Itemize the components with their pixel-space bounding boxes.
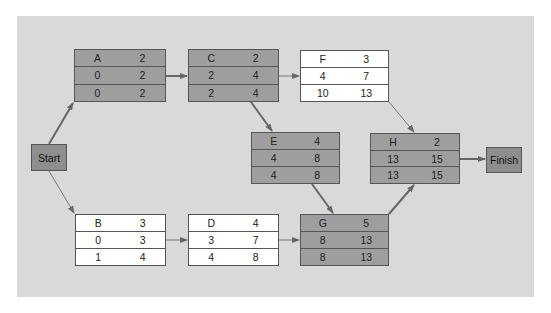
late-start: 10 [301,87,345,99]
early-finish: 7 [345,70,389,82]
activity-node-f: F3 47 1013 [300,50,389,102]
activity-node-a: A2 02 02 [74,49,166,102]
early-start: 0 [76,234,121,246]
node-header-row: D4 [189,215,278,231]
late-start: 13 [371,169,415,181]
late-finish: 13 [345,251,389,263]
early-start: 13 [371,153,415,165]
late-finish: 8 [296,169,340,181]
late-start: 4 [189,251,234,263]
node-early-row: 02 [75,66,165,83]
activity-node-d: D4 37 48 [188,214,279,266]
activity-name: H [371,136,415,148]
node-early-row: 48 [252,149,339,166]
node-early-row: 37 [189,231,278,248]
late-finish: 15 [415,169,459,181]
activity-name: B [76,217,121,229]
start-node: Start [31,144,67,171]
node-header-row: B3 [76,215,165,231]
node-early-row: 1315 [371,150,459,167]
activity-name: A [75,52,120,64]
early-finish: 8 [296,152,340,164]
early-start: 0 [75,69,120,81]
activity-duration: 2 [120,52,165,64]
activity-duration: 3 [121,217,166,229]
node-late-row: 1315 [371,166,459,183]
late-start: 1 [76,251,121,263]
node-early-row: 24 [189,66,278,83]
node-late-row: 48 [252,166,339,183]
early-finish: 4 [234,69,279,81]
activity-name: D [189,217,234,229]
late-finish: 4 [234,87,279,99]
late-finish: 2 [120,87,165,99]
node-header-row: E4 [252,133,339,149]
node-early-row: 47 [301,67,388,84]
activity-name: G [301,217,345,229]
activity-node-e: E4 48 48 [251,132,340,184]
finish-label: Finish [490,154,518,166]
activity-node-c: C2 24 24 [188,49,279,102]
early-start: 4 [301,70,345,82]
node-header-row: F3 [301,51,388,67]
late-finish: 4 [121,251,166,263]
node-late-row: 1013 [301,84,388,101]
late-start: 0 [75,87,120,99]
early-finish: 7 [234,234,279,246]
node-late-row: 14 [76,248,165,265]
node-late-row: 48 [189,248,278,265]
late-finish: 8 [234,251,279,263]
node-header-row: H2 [371,134,459,150]
node-late-row: 813 [301,248,388,265]
late-start: 8 [301,251,345,263]
activity-name: E [252,135,296,147]
activity-node-g: G5 813 813 [300,214,389,266]
activity-duration: 5 [345,217,389,229]
node-late-row: 02 [75,84,165,101]
early-start: 8 [301,234,345,246]
start-label: Start [38,152,60,164]
late-start: 2 [189,87,234,99]
node-early-row: 03 [76,231,165,248]
node-header-row: C2 [189,50,278,66]
early-finish: 3 [121,234,166,246]
early-finish: 15 [415,153,459,165]
activity-duration: 2 [234,52,279,64]
late-finish: 13 [345,87,389,99]
node-header-row: A2 [75,50,165,66]
early-start: 3 [189,234,234,246]
activity-node-b: B3 03 14 [75,214,166,266]
activity-duration: 4 [234,217,279,229]
node-header-row: G5 [301,215,388,231]
finish-node: Finish [486,147,522,173]
activity-duration: 4 [296,135,340,147]
activity-name: F [301,53,345,65]
early-start: 4 [252,152,296,164]
activity-node-h: H2 1315 1315 [370,133,460,184]
activity-duration: 3 [345,53,389,65]
early-finish: 13 [345,234,389,246]
early-start: 2 [189,69,234,81]
node-early-row: 813 [301,231,388,248]
activity-name: C [189,52,234,64]
activity-duration: 2 [415,136,459,148]
node-late-row: 24 [189,84,278,101]
late-start: 4 [252,169,296,181]
early-finish: 2 [120,69,165,81]
